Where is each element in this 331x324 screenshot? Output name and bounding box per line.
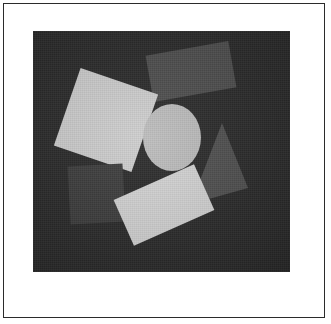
- shape-square-large-light: [54, 68, 158, 172]
- figure-root: [0, 0, 331, 324]
- shape-rect-top-medium: [146, 41, 237, 102]
- shape-square-lowleft-dark: [68, 164, 126, 225]
- shape-rect-bottom-bright: [114, 164, 215, 245]
- shape-layer: [33, 31, 290, 272]
- image-panel: [33, 31, 290, 272]
